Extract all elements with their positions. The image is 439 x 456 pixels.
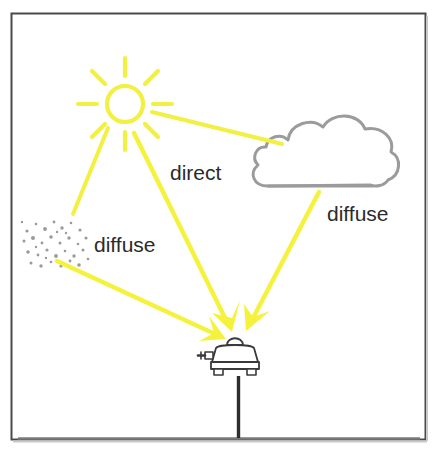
figure-frame <box>12 14 428 442</box>
aerosol-dot <box>77 243 80 246</box>
pyranometer-dome <box>227 338 243 345</box>
aerosol-dot <box>23 240 26 243</box>
label-diffuse-cloud: diffuse <box>327 202 389 225</box>
aerosol-dot <box>45 257 47 259</box>
aerosol-dot <box>39 264 42 267</box>
pyranometer-foot-left <box>214 369 223 375</box>
aerosol-dot <box>59 242 62 245</box>
aerosol-dot <box>21 221 23 223</box>
pyranometer-base-band <box>211 362 259 369</box>
aerosol-dot <box>50 261 53 264</box>
aerosol-dot <box>25 229 28 232</box>
aerosol-dot <box>45 248 48 251</box>
aerosol-dot <box>31 236 35 240</box>
aerosol-dot <box>56 231 58 233</box>
aerosol-dot <box>82 249 85 252</box>
aerosol-dot <box>77 263 81 267</box>
pyranometer-foot-right <box>247 369 256 375</box>
solar-radiation-diagram: direct diffuse diffuse <box>0 0 439 456</box>
aerosol-dot <box>84 236 87 239</box>
aerosol-dot <box>64 250 67 253</box>
aerosol-dot <box>30 262 33 265</box>
aerosol-dot <box>54 254 58 258</box>
aerosol-dot <box>49 235 53 239</box>
aerosol-dot <box>53 221 56 224</box>
aerosol-dot <box>70 222 73 225</box>
aerosol-dot <box>26 250 30 254</box>
pyranometer-body <box>212 345 258 362</box>
aerosol-dot <box>35 246 37 248</box>
aerosol-dot <box>35 223 38 226</box>
aerosol-dot <box>72 254 75 257</box>
label-direct: direct <box>170 161 222 184</box>
aerosol-dot <box>78 228 81 231</box>
aerosol-dot <box>67 236 70 239</box>
aerosol-dot <box>60 226 63 229</box>
aerosol-dot <box>65 232 67 234</box>
aerosol-dot <box>69 260 72 263</box>
aerosol-dot <box>41 242 44 245</box>
aerosol-dot <box>37 254 40 257</box>
diagram-canvas: direct diffuse diffuse <box>0 0 439 456</box>
aerosol-dot <box>43 227 47 231</box>
aerosol-dot <box>87 258 90 261</box>
label-diffuse-aerosol: diffuse <box>94 233 156 256</box>
